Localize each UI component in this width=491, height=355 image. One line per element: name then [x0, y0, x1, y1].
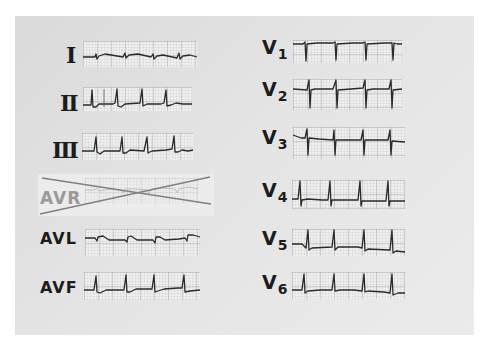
lead-label-V5: V5 [262, 229, 287, 252]
ecg-strip-V2 [293, 79, 402, 110]
ecg-trace-V4 [292, 180, 405, 209]
ecg-strip-I [83, 41, 197, 67]
ecg-strip-III [82, 133, 193, 160]
ecg-strip-V5 [292, 229, 405, 256]
ecg-trace-V1 [293, 40, 402, 63]
ecg-strip-II [83, 87, 192, 111]
ecg-trace-AVF [84, 272, 200, 300]
lead-label-I: I [66, 44, 74, 66]
ecg-strip-V1 [293, 40, 402, 63]
ecg-trace-AVL [85, 229, 200, 256]
lead-label-AVL: AVL [40, 231, 77, 247]
lead-label-II: II [60, 92, 77, 114]
lead-label-III: III [52, 139, 77, 161]
ecg-trace-V3 [293, 127, 405, 159]
ecg-trace-III [82, 133, 193, 160]
ecg-trace-V5 [292, 229, 405, 256]
ecg-trace-V6 [292, 272, 405, 299]
lead-label-V6: V6 [262, 273, 287, 296]
ecg-strip-AVF [84, 272, 200, 300]
cross-out-mark-icon [38, 174, 214, 216]
ecg-strip-V6 [292, 272, 405, 299]
ecg-trace-II [83, 87, 192, 111]
lead-label-V3: V3 [262, 128, 287, 151]
ecg-strip-V3 [293, 127, 405, 159]
lead-label-V2: V2 [262, 80, 287, 103]
ecg-trace-I [83, 41, 197, 67]
ecg-trace-V2 [293, 79, 402, 110]
ecg-strip-V4 [292, 180, 405, 209]
ecg-strip-AVL [85, 229, 200, 256]
lead-label-AVF: AVF [40, 280, 78, 296]
lead-label-V4: V4 [262, 181, 287, 204]
lead-label-V1: V1 [262, 38, 287, 61]
lead-row-AVR-excluded: AVR [38, 174, 214, 216]
